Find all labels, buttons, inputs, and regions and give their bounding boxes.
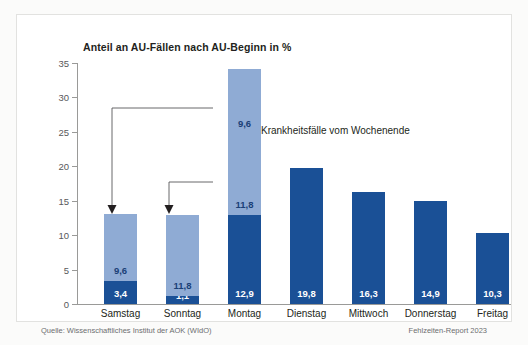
y-axis-label: 5 xyxy=(41,264,69,275)
bar-group[interactable]: 16,3 xyxy=(352,15,385,304)
x-axis-label: Freitag xyxy=(448,308,528,319)
bar-group[interactable]: 10,3 xyxy=(476,15,509,304)
y-axis-label: 35 xyxy=(41,58,69,69)
footer-source: Quelle: Wissenschaftliches Institut der … xyxy=(41,326,211,335)
bar-group[interactable]: 19,8 xyxy=(290,15,323,304)
y-axis-label: 15 xyxy=(41,195,69,206)
page-background: Anteil an AU-Fällen nach AU-Beginn in % … xyxy=(0,0,528,345)
bar-value-label: 16,3 xyxy=(352,288,385,299)
annotation-label-weekend: Krankheitsfälle vom Wochenende xyxy=(261,125,410,136)
bar-value-label: 14,9 xyxy=(414,288,447,299)
y-axis-label: 10 xyxy=(41,230,69,241)
y-axis-label: 0 xyxy=(41,299,69,310)
bar-value-label: 10,3 xyxy=(476,288,509,299)
bar-value-label: 19,8 xyxy=(290,288,323,299)
bar-group[interactable]: 12,911,89,6 xyxy=(228,15,261,304)
y-axis-label: 30 xyxy=(41,92,69,103)
footer-report: Fehlzeiten-Report 2023 xyxy=(409,326,487,335)
bar-segment[interactable] xyxy=(290,168,323,304)
chart-card: Anteil an AU-Fällen nach AU-Beginn in % … xyxy=(16,14,512,322)
bar-group[interactable]: 14,9 xyxy=(414,15,447,304)
bar-value-label: 11,8 xyxy=(228,199,261,210)
bar-value-label: 11,8 xyxy=(166,280,199,291)
bar-value-label: 9,6 xyxy=(228,118,261,129)
bar-value-label: 3,4 xyxy=(104,288,137,299)
x-axis-line xyxy=(77,304,511,305)
bar-value-label: 12,9 xyxy=(228,288,261,299)
y-axis-label: 25 xyxy=(41,126,69,137)
bar-group[interactable]: 3,49,6 xyxy=(104,15,137,304)
y-axis-tick xyxy=(72,304,78,305)
y-axis-label: 20 xyxy=(41,161,69,172)
bar-value-label: 9,6 xyxy=(104,265,137,276)
bar-group[interactable]: 1,111,8 xyxy=(166,15,199,304)
